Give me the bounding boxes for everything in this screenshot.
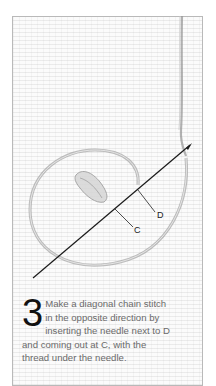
step-number: 3 [22, 298, 43, 326]
step-text-line: Make a diagonal chain stitch [22, 297, 200, 311]
leader-line-d [138, 190, 155, 212]
step-text-line: and coming out at C, with the [22, 338, 200, 352]
step-text-line: in the opposite direction by [22, 311, 200, 325]
leader-line-c [115, 209, 133, 227]
step-text-line: inserting the needle next to D [22, 324, 200, 338]
point-label-c: C [134, 225, 141, 235]
thread-strand [181, 16, 186, 156]
step-text-line: thread under the needle. [22, 351, 200, 365]
point-label-d: D [157, 210, 164, 220]
needle [33, 145, 190, 278]
step-instructions: 3 Make a diagonal chain stitch in the op… [22, 297, 200, 365]
